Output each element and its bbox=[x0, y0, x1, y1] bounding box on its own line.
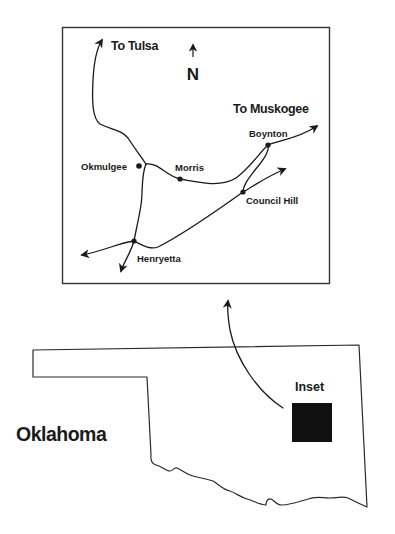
road-henryetta-council-hill bbox=[134, 192, 243, 248]
oklahoma-state-map: Inset Oklahoma bbox=[16, 345, 367, 507]
town-label-morris: Morris bbox=[175, 162, 204, 173]
town-dot-council-hill bbox=[240, 189, 245, 194]
inset-detail-map: N To Tulsa To Muskogee Okmulgee Morris B… bbox=[63, 28, 330, 284]
north-label: N bbox=[187, 65, 199, 84]
label-to-muskogee: To Muskogee bbox=[233, 102, 309, 116]
town-label-boynton: Boynton bbox=[249, 128, 288, 139]
town-label-okmulgee: Okmulgee bbox=[81, 161, 127, 172]
label-to-tulsa: To Tulsa bbox=[111, 39, 159, 53]
town-label-henryetta: Henryetta bbox=[137, 253, 182, 264]
inset-pointer-arrow bbox=[228, 301, 283, 408]
road-to-tulsa bbox=[93, 40, 146, 164]
state-label: Oklahoma bbox=[16, 423, 107, 445]
town-label-council-hill: Council Hill bbox=[246, 195, 298, 206]
town-dot-henryetta bbox=[131, 238, 136, 243]
road-henryetta-west bbox=[82, 241, 134, 255]
map-figure: N To Tulsa To Muskogee Okmulgee Morris B… bbox=[0, 0, 395, 534]
town-dot-boynton bbox=[265, 142, 270, 147]
road-council-hill-east bbox=[243, 169, 285, 192]
town-dot-morris bbox=[177, 176, 182, 181]
town-dot-okmulgee bbox=[136, 163, 142, 169]
inset-location-square bbox=[292, 403, 332, 442]
inset-label: Inset bbox=[295, 380, 325, 394]
road-to-muskogee bbox=[146, 126, 317, 184]
